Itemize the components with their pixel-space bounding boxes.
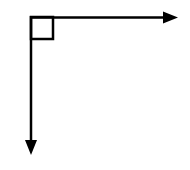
arrow-down-icon — [25, 140, 37, 155]
right-angle-diagram — [0, 0, 190, 170]
diagram-canvas — [0, 0, 190, 170]
arrow-right-icon — [163, 12, 178, 24]
right-angle-marker — [31, 17, 53, 39]
